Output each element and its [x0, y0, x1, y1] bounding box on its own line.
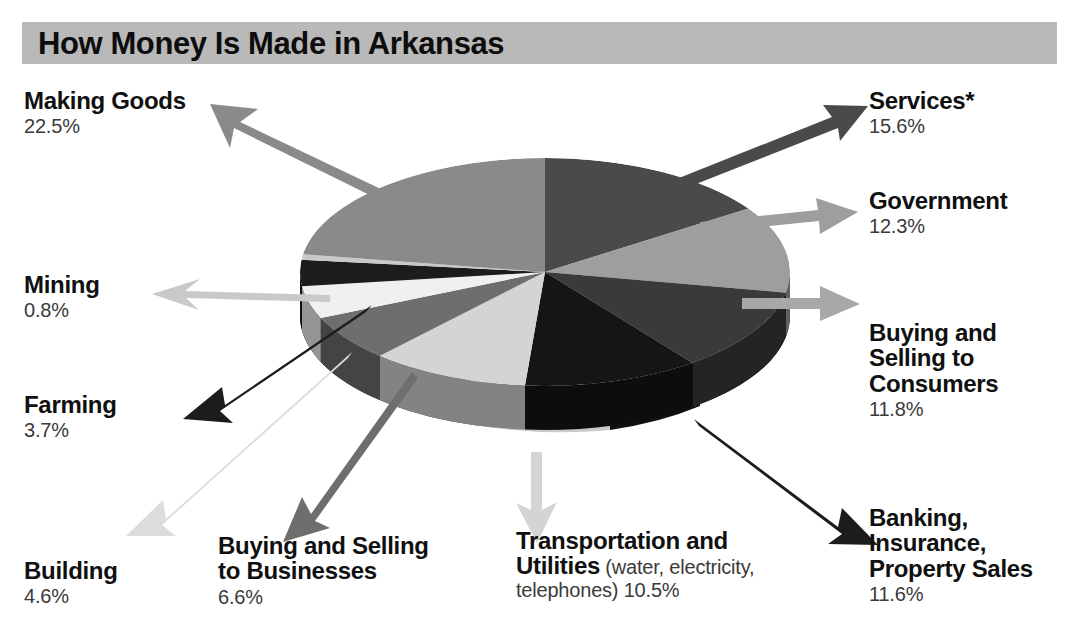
- label-services-pct: 15.6%: [869, 115, 974, 138]
- label-banking: Banking, Insurance, Property Sales 11.6%: [869, 505, 1033, 606]
- arrow-making-goods: [210, 104, 404, 209]
- label-mining: Mining 0.8%: [24, 272, 100, 322]
- label-mining-pct: 0.8%: [24, 299, 100, 322]
- label-making-goods-pct: 22.5%: [24, 115, 186, 138]
- label-buying-selling-consumers-line2: Selling to: [869, 345, 998, 370]
- label-building-pct: 4.6%: [24, 585, 118, 608]
- label-transportation-line2: Utilities: [516, 552, 600, 579]
- label-banking-line2: Insurance,: [869, 530, 1033, 555]
- label-banking-line3: Property Sales: [869, 556, 1033, 581]
- label-buying-selling-consumers-line1: Buying and: [869, 320, 998, 345]
- label-banking-line1: Banking,: [869, 505, 1033, 530]
- label-buying-selling-businesses-line2: to Businesses: [218, 558, 429, 583]
- label-buying-selling-businesses: Buying and Selling to Businesses 6.6%: [218, 533, 429, 609]
- label-making-goods: Making Goods 22.5%: [24, 88, 186, 138]
- label-making-goods-title: Making Goods: [24, 88, 186, 113]
- label-transportation-note1: (water, electricity,: [600, 556, 754, 578]
- label-transportation-note2: telephones) 10.5%: [516, 579, 861, 602]
- label-buying-selling-businesses-pct: 6.6%: [218, 586, 429, 609]
- label-services-title: Services*: [869, 88, 974, 113]
- label-farming-pct: 3.7%: [24, 419, 117, 442]
- label-building: Building 4.6%: [24, 558, 118, 608]
- label-buying-selling-consumers-pct: 11.8%: [869, 398, 998, 421]
- infographic-page: How Money Is Made in Arkansas: [0, 0, 1083, 638]
- label-government-title: Government: [869, 188, 1007, 213]
- label-mining-title: Mining: [24, 272, 100, 297]
- label-government: Government 12.3%: [869, 188, 1007, 238]
- label-government-pct: 12.3%: [869, 215, 1007, 238]
- label-buying-selling-businesses-line1: Buying and Selling: [218, 533, 429, 558]
- label-buying-selling-consumers: Buying and Selling to Consumers 11.8%: [869, 320, 998, 421]
- label-building-title: Building: [24, 558, 118, 583]
- label-banking-pct: 11.6%: [869, 583, 1033, 606]
- label-farming: Farming 3.7%: [24, 392, 117, 442]
- label-transportation: Transportation and Utilities (water, ele…: [516, 528, 861, 602]
- label-services: Services* 15.6%: [869, 88, 974, 138]
- label-buying-selling-consumers-line3: Consumers: [869, 371, 998, 396]
- label-farming-title: Farming: [24, 392, 117, 417]
- label-transportation-line1: Transportation and: [516, 527, 728, 554]
- arrow-services: [664, 105, 868, 195]
